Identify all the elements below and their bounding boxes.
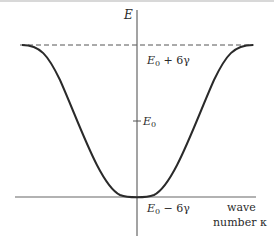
center-energy-label: E0 xyxy=(143,116,156,131)
upper-edge-label: E0 + 6γ xyxy=(147,55,190,70)
energy-axis-label: E xyxy=(124,9,133,21)
wave-label-line1: wave xyxy=(227,202,256,214)
diagram-canvas: E E0 + 6γ E0 E0 − 6γ wave number κ xyxy=(0,0,274,244)
lower-edge-label: E0 − 6γ xyxy=(147,203,190,218)
wave-label-line2: number κ xyxy=(213,217,267,229)
